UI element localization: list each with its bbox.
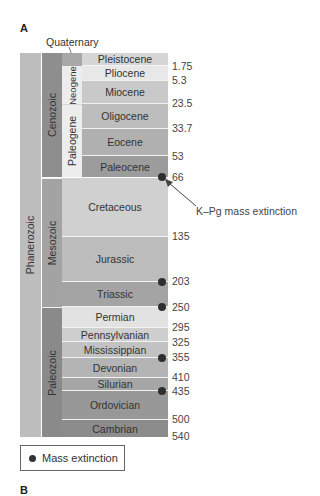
era-label: Cenozoic <box>46 93 58 137</box>
unit-mississippian: Mississippian <box>62 342 168 358</box>
age-label: 410 <box>172 372 190 383</box>
era-label: Mesozoic <box>46 221 58 265</box>
age-label: 355 <box>172 352 190 363</box>
age-label: 325 <box>172 337 190 348</box>
mass-extinction-dot-435 <box>158 387 166 395</box>
era-paleozoic: Paleozoic <box>42 307 62 437</box>
age-label: 540 <box>172 431 190 442</box>
age-label: 33.7 <box>172 123 192 134</box>
age-label: 250 <box>172 302 190 313</box>
quaternary-box <box>62 53 82 66</box>
unit-cretaceous: Cretaceous <box>62 178 168 237</box>
eon-phanerozoic: Phanerozoic <box>20 53 41 437</box>
unit-pleistocene: Pleistocene <box>82 53 168 66</box>
era-label: Paleozoic <box>46 350 58 396</box>
legend: Mass extinction <box>20 445 125 471</box>
age-label: 135 <box>172 231 190 242</box>
eon-label: Phanerozoic <box>25 216 37 274</box>
age-label: 5.3 <box>172 75 187 86</box>
age-label: 1.75 <box>172 61 192 72</box>
unit-oligocene: Oligocene <box>82 104 168 129</box>
unit-jurassic: Jurassic <box>62 237 168 282</box>
period-label: Paleogene <box>66 116 78 166</box>
unit-ordovician: Ordovician <box>62 391 168 420</box>
unit-devonian: Devonian <box>62 358 168 378</box>
unit-permian: Permian <box>62 307 168 328</box>
age-label: 53 <box>172 151 184 162</box>
panel-label-a: A <box>20 22 28 34</box>
unit-triassic: Triassic <box>62 282 168 307</box>
unit-cambrian: Cambrian <box>62 420 168 437</box>
age-label: 435 <box>172 386 190 397</box>
period-paleogene: Paleogene <box>62 104 82 177</box>
unit-eocene: Eocene <box>82 129 168 156</box>
unit-paleocene: Paleocene <box>82 156 168 177</box>
legend-dot-icon <box>29 455 36 462</box>
era-mesozoic: Mesozoic <box>42 178 62 307</box>
era-cenozoic: Cenozoic <box>42 53 62 177</box>
mass-extinction-dot-355 <box>158 354 166 362</box>
age-label: 295 <box>172 322 190 333</box>
panel-label-b: B <box>20 484 28 496</box>
mass-extinction-dot-250 <box>158 303 166 311</box>
period-neogene: Neogene <box>62 66 82 104</box>
unit-pliocene: Pliocene <box>82 66 168 81</box>
kpg-annotation: K–Pg mass extinction <box>196 205 297 217</box>
legend-label: Mass extinction <box>42 452 118 464</box>
period-label: Neogene <box>67 66 78 105</box>
age-label: 203 <box>172 276 190 287</box>
unit-pennsylvanian: Pennsylvanian <box>62 328 168 342</box>
age-label: 23.5 <box>172 98 192 109</box>
unit-silurian: Silurian <box>62 378 168 391</box>
unit-miocene: Miocene <box>82 81 168 104</box>
age-label: 500 <box>172 414 190 425</box>
mass-extinction-dot-203 <box>158 278 166 286</box>
